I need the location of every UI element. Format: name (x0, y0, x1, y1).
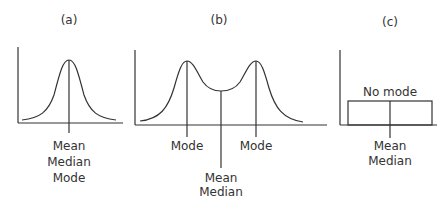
panel-c-title: (c) (382, 14, 398, 30)
panel-a-label-mode: Mode (53, 170, 86, 186)
panel-b-label-mode-right: Mode (240, 138, 273, 154)
panel-c-label-mean: Mean (374, 138, 407, 154)
panel-b-label-mode-left: Mode (171, 138, 204, 154)
panel-a-label-median: Median (47, 154, 91, 170)
panel-a-label-mean: Mean (53, 138, 86, 154)
panel-c-label-median: Median (368, 153, 412, 169)
panel-a-graph (18, 47, 123, 133)
panel-b-graph (135, 50, 327, 168)
panel-a-title: (a) (61, 12, 78, 28)
panel-b-label-median: Median (199, 184, 243, 200)
panel-c-label-no-mode: No mode (363, 84, 417, 100)
panel-b-title: (b) (211, 12, 228, 28)
